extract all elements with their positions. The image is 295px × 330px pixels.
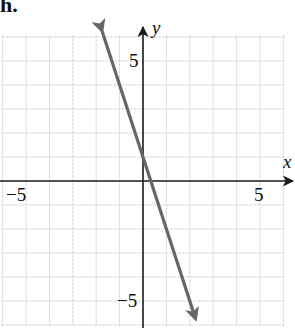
graphed-line <box>102 31 196 319</box>
x-tick-neg5: −5 <box>6 184 26 205</box>
coordinate-plane: h. x y −5 5 5 −5 <box>0 0 295 330</box>
y-tick-5: 5 <box>129 50 139 71</box>
y-axis-label: y <box>150 17 161 38</box>
x-axis-label: x <box>282 151 292 172</box>
x-tick-5: 5 <box>254 184 264 205</box>
y-tick-neg5: −5 <box>117 290 137 311</box>
part-label: h. <box>0 0 18 17</box>
